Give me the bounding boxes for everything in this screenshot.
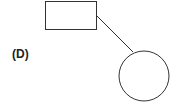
diagram-label: (D) bbox=[12, 47, 29, 61]
connector-line bbox=[97, 16, 133, 52]
diagram-canvas: (D) bbox=[0, 0, 177, 109]
circle-node bbox=[119, 51, 169, 101]
rectangle-node bbox=[46, 2, 97, 30]
